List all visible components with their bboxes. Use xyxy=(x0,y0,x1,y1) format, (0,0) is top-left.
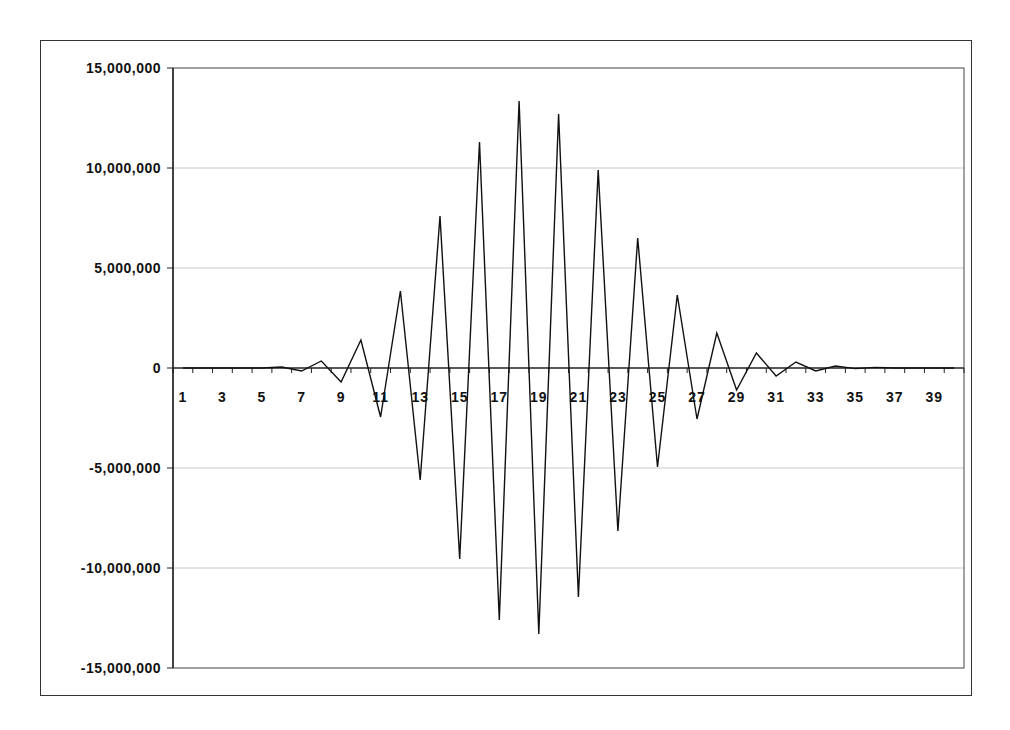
x-tick-label: 7 xyxy=(297,389,306,405)
x-tick-label: 17 xyxy=(490,389,508,405)
x-tick-label: 39 xyxy=(926,389,944,405)
line-chart: 15,000,00010,000,0005,000,0000-5,000,000… xyxy=(0,0,1010,730)
x-tick-label: 19 xyxy=(530,389,548,405)
x-tick-label: 23 xyxy=(609,389,627,405)
x-tick-label: 35 xyxy=(846,389,864,405)
y-tick-label: 5,000,000 xyxy=(94,260,161,276)
x-tick-label: 21 xyxy=(570,389,588,405)
x-tick-label: 31 xyxy=(767,389,785,405)
x-tick-label: 5 xyxy=(258,389,267,405)
x-tick-label: 9 xyxy=(337,389,346,405)
y-tick-label: -5,000,000 xyxy=(89,460,161,476)
x-tick-label: 15 xyxy=(451,389,469,405)
y-tick-label: -15,000,000 xyxy=(81,660,161,676)
x-axis: 13579111315171921232527293133353739 xyxy=(173,368,964,405)
y-tick-label: 10,000,000 xyxy=(86,160,161,176)
x-tick-label: 3 xyxy=(218,389,227,405)
x-tick-label: 37 xyxy=(886,389,904,405)
y-tick-label: -10,000,000 xyxy=(81,560,161,576)
x-tick-label: 33 xyxy=(807,389,825,405)
y-axis: 15,000,00010,000,0005,000,0000-5,000,000… xyxy=(81,60,173,676)
x-tick-label: 1 xyxy=(178,389,187,405)
y-tick-label: 15,000,000 xyxy=(86,60,161,76)
y-tick-label: 0 xyxy=(153,360,161,376)
